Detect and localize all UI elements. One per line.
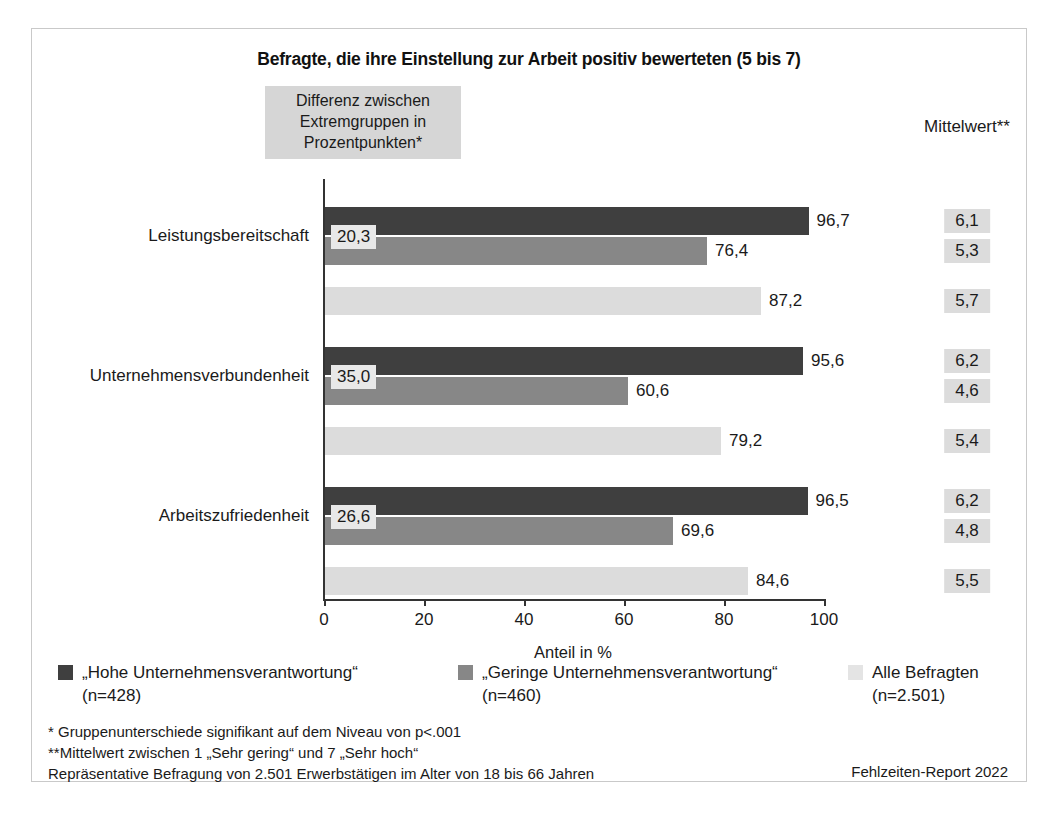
bar-0-group-2 (325, 487, 808, 515)
legend-label: „Hohe Unternehmensverantwortung“(n=428) (82, 661, 358, 707)
x-axis-tick-label: 20 (415, 610, 434, 630)
category-label-0: Leistungsbereitschaft (148, 226, 309, 246)
chart-frame: Befragte, die ihre Einstellung zur Arbei… (31, 28, 1027, 782)
bar-2-group-2 (325, 567, 748, 595)
plot-area: 020406080100 96,776,487,220,395,660,679,… (323, 179, 823, 599)
x-axis-tick-label: 40 (515, 610, 534, 630)
x-axis-tick-label: 80 (715, 610, 734, 630)
x-axis-tick (524, 599, 526, 606)
bar-value-label: 76,4 (715, 237, 748, 265)
legend-label-text: „Geringe Unternehmensverantwortung“ (482, 661, 778, 684)
footnote-1: **Mittelwert zwischen 1 „Sehr gering“ un… (48, 742, 748, 763)
chart-legend: „Hohe Unternehmensverantwortung“(n=428)„… (58, 661, 1002, 717)
legend-label-text: Alle Befragten (872, 661, 979, 684)
x-axis-tick (424, 599, 426, 606)
bar-0-group-0 (325, 207, 809, 235)
difference-value-chip: 26,6 (331, 505, 376, 529)
x-axis-line (323, 599, 825, 601)
bar-value-label: 95,6 (811, 347, 844, 375)
x-axis-tick (324, 599, 326, 606)
bar-value-label: 96,7 (817, 207, 850, 235)
category-label-2: Arbeitszufriedenheit (159, 506, 309, 526)
difference-value-chip: 20,3 (331, 225, 376, 249)
legend-label-n: (n=2.501) (872, 684, 979, 707)
means-column: 6,15,35,76,24,65,46,24,85,5 (887, 179, 1047, 599)
legend-swatch-icon (848, 665, 863, 680)
legend-item-0[interactable]: „Hohe Unternehmensverantwortung“(n=428) (58, 661, 358, 707)
x-axis-tick (724, 599, 726, 606)
difference-legend-line-3: Prozentpunkten* (265, 132, 461, 153)
mean-value-chip: 5,3 (944, 239, 990, 263)
difference-value-chip: 35,0 (331, 365, 376, 389)
legend-swatch-icon (458, 665, 473, 680)
footnote-2: Repräsentative Befragung von 2.501 Erwer… (48, 763, 748, 784)
chart-page: Befragte, die ihre Einstellung zur Arbei… (0, 0, 1058, 815)
means-column-header: Mittelwert** (887, 117, 1047, 137)
bar-value-label: 84,6 (756, 567, 789, 595)
mean-value-chip: 6,2 (944, 489, 990, 513)
x-axis-tick-label: 100 (810, 610, 838, 630)
legend-label-n: (n=460) (482, 684, 778, 707)
bar-value-label: 60,6 (636, 377, 669, 405)
legend-item-2[interactable]: Alle Befragten(n=2.501) (848, 661, 979, 707)
footnote-0: * Gruppenunterschiede signifikant auf de… (48, 721, 748, 742)
bar-0-group-1 (325, 347, 803, 375)
difference-legend-line-1: Differenz zwischen (265, 90, 461, 111)
mean-value-chip: 4,6 (944, 379, 990, 403)
difference-legend-box: Differenz zwischen Extremgruppen in Proz… (265, 86, 461, 159)
category-axis-labels: LeistungsbereitschaftUnternehmensverbund… (32, 179, 321, 599)
bar-1-group-0 (325, 237, 707, 265)
legend-label: Alle Befragten(n=2.501) (872, 661, 979, 707)
bar-2-group-1 (325, 427, 721, 455)
legend-label-n: (n=428) (82, 684, 358, 707)
bar-value-label: 87,2 (769, 287, 802, 315)
bar-2-group-0 (325, 287, 761, 315)
x-axis-title: Anteil in % (323, 643, 823, 662)
mean-value-chip: 5,4 (944, 429, 990, 453)
category-label-1: Unternehmensverbundenheit (90, 366, 309, 386)
page-title: Befragte, die ihre Einstellung zur Arbei… (32, 49, 1026, 70)
source-note: Fehlzeiten-Report 2022 (851, 763, 1008, 780)
mean-value-chip: 6,1 (944, 209, 990, 233)
mean-value-chip: 5,7 (944, 289, 990, 313)
x-axis-tick-label: 60 (615, 610, 634, 630)
legend-label: „Geringe Unternehmensverantwortung“(n=46… (482, 661, 778, 707)
legend-swatch-icon (58, 665, 73, 680)
bar-value-label: 79,2 (729, 427, 762, 455)
mean-value-chip: 4,8 (944, 519, 990, 543)
legend-item-1[interactable]: „Geringe Unternehmensverantwortung“(n=46… (458, 661, 778, 707)
x-axis-tick-label: 0 (319, 610, 328, 630)
legend-label-text: „Hohe Unternehmensverantwortung“ (82, 661, 358, 684)
x-axis-tick (824, 599, 826, 606)
x-axis-tick (624, 599, 626, 606)
bar-1-group-2 (325, 517, 673, 545)
bar-value-label: 69,6 (681, 517, 714, 545)
mean-value-chip: 6,2 (944, 349, 990, 373)
bar-value-label: 96,5 (816, 487, 849, 515)
footnotes: * Gruppenunterschiede signifikant auf de… (48, 721, 748, 784)
difference-legend-line-2: Extremgruppen in (265, 111, 461, 132)
mean-value-chip: 5,5 (944, 569, 990, 593)
